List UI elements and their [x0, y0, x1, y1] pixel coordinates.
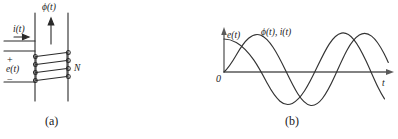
flux-current-curve-label: ϕ(t), i(t)	[261, 28, 291, 38]
time-axis-label: t	[382, 79, 385, 89]
panel-a-coil-diagram: ϕ(t) i(t) + e(t) − N (a)	[0, 0, 199, 139]
caption-a: (a)	[45, 115, 58, 127]
figure-root: ϕ(t) i(t) + e(t) − N (a)	[0, 0, 398, 139]
panel-b-waveform-chart: e(t) ϕ(t), i(t) 0 t (b)	[199, 0, 398, 139]
coil-winding-icon	[34, 51, 71, 83]
flux-current-waveform-curve	[224, 33, 388, 105]
current-label: i(t)	[13, 25, 25, 35]
caption-b: (b)	[285, 115, 299, 127]
arrow-right-icon	[14, 34, 29, 39]
flux-label: ϕ(t)	[42, 3, 56, 13]
arrow-right-icon	[386, 69, 394, 75]
emf-waveform-curve	[224, 33, 385, 105]
turns-label: N	[74, 64, 80, 74]
origin-label: 0	[216, 74, 221, 84]
emf-curve-label: e(t)	[227, 31, 240, 41]
arrow-up-icon	[48, 18, 54, 44]
negative-terminal-label: −	[7, 75, 13, 85]
arrow-up-icon	[221, 27, 227, 35]
panel-a-drawing	[0, 0, 199, 139]
